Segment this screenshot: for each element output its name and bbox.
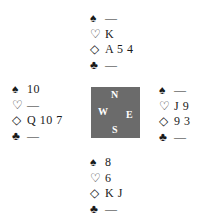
club-icon: ♣ [159, 130, 174, 146]
heart-icon: ♡ [159, 99, 174, 115]
heart-icon: ♡ [90, 27, 105, 43]
compass-west-label: W [98, 106, 108, 117]
north-spades: ♠— [90, 11, 134, 27]
spade-icon: ♠ [12, 82, 27, 98]
diamond-icon: ◇ [90, 186, 105, 202]
west-clubs: ♣— [12, 129, 63, 145]
west-spades: ♠10 [12, 82, 63, 98]
east-hearts: ♡J 9 [159, 99, 191, 115]
heart-icon: ♡ [90, 171, 105, 187]
south-hand: ♠8 ♡6 ◇K J ♣— [90, 155, 123, 217]
south-hearts: ♡6 [90, 171, 123, 187]
spade-icon: ♠ [159, 83, 174, 99]
north-hand: ♠— ♡K ◇A 5 4 ♣— [90, 11, 134, 73]
compass-table: N W E S [91, 87, 140, 138]
east-spades: ♠— [159, 83, 191, 99]
north-clubs: ♣— [90, 58, 134, 74]
diamond-icon: ◇ [90, 42, 105, 58]
spade-icon: ♠ [90, 11, 105, 27]
north-hearts: ♡K [90, 27, 134, 43]
east-clubs: ♣— [159, 130, 191, 146]
diamond-icon: ◇ [12, 113, 27, 129]
north-diamonds: ◇A 5 4 [90, 42, 134, 58]
west-hand: ♠10 ♡— ◇Q 10 7 ♣— [12, 82, 63, 144]
compass-east-label: E [126, 109, 133, 120]
west-hearts: ♡— [12, 98, 63, 114]
club-icon: ♣ [90, 202, 105, 218]
heart-icon: ♡ [12, 98, 27, 114]
spade-icon: ♠ [90, 155, 105, 171]
club-icon: ♣ [12, 129, 27, 145]
diamond-icon: ◇ [159, 114, 174, 130]
south-diamonds: ◇K J [90, 186, 123, 202]
east-diamonds: ◇9 3 [159, 114, 191, 130]
compass-south-label: S [112, 124, 118, 135]
east-hand: ♠— ♡J 9 ◇9 3 ♣— [159, 83, 191, 145]
west-diamonds: ◇Q 10 7 [12, 113, 63, 129]
south-clubs: ♣— [90, 202, 123, 218]
club-icon: ♣ [90, 58, 105, 74]
compass-north-label: N [111, 89, 118, 100]
south-spades: ♠8 [90, 155, 123, 171]
